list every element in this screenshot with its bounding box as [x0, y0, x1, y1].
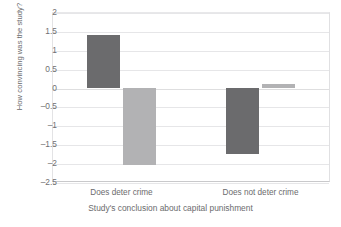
- bar: [123, 88, 156, 165]
- gridline-neg1: [53, 126, 329, 127]
- gridline-0: [53, 89, 329, 90]
- gridline-1_5: [53, 32, 329, 33]
- x-tick-label: Does deter crime: [90, 188, 152, 197]
- bar: [87, 35, 120, 88]
- x-axis-title: Study's conclusion about capital punishm…: [0, 203, 341, 213]
- y-tick-label: 1.5: [17, 26, 57, 36]
- y-tick-label: –2.5: [17, 177, 57, 187]
- y-tick-label: –2: [17, 158, 57, 168]
- bar: [262, 84, 295, 88]
- y-tick-label: –1: [17, 120, 57, 130]
- gridline-2: [53, 13, 329, 14]
- y-tick-label: –1.5: [17, 139, 57, 149]
- y-tick-label: –0.5: [17, 101, 57, 111]
- x-tick-label: Does not deter crime: [223, 188, 299, 197]
- bar-chart: How convincing was the study? 21.510.50–…: [0, 0, 341, 227]
- y-tick-label: 2: [17, 7, 57, 17]
- gridline-neg2: [53, 164, 329, 165]
- y-tick-label: 0.5: [17, 64, 57, 74]
- gridline-neg2_5: [53, 183, 329, 184]
- gridline-neg1_5: [53, 145, 329, 146]
- gridline-neg0_5: [53, 107, 329, 108]
- y-tick-label: 1: [17, 45, 57, 55]
- bar: [226, 88, 259, 154]
- y-tick-label: 0: [17, 83, 57, 93]
